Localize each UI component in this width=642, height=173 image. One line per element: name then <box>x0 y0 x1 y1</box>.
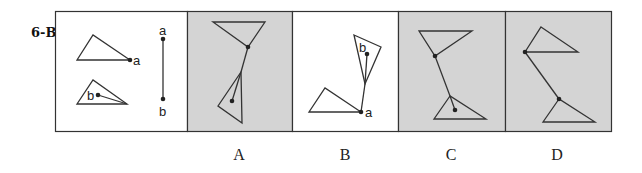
option-b-point-a <box>359 110 364 115</box>
puzzle-figure: a b a b b a <box>0 0 642 173</box>
option-c-point-1 <box>433 54 438 59</box>
option-d-point-1 <box>523 50 528 55</box>
reference-point-a <box>128 58 133 63</box>
option-label-a[interactable]: A <box>229 146 249 164</box>
option-b-label-a: a <box>365 105 373 120</box>
reference-point-b <box>96 93 101 98</box>
option-label-c[interactable]: C <box>441 146 461 164</box>
option-panel-b[interactable] <box>293 12 399 132</box>
reference-segment-point-b <box>161 97 166 102</box>
reference-label-b: b <box>87 88 94 103</box>
option-c-point-2 <box>453 108 458 113</box>
reference-segment-label-b: b <box>159 104 166 119</box>
option-panel-c[interactable] <box>399 12 506 132</box>
option-label-d[interactable]: D <box>547 146 567 164</box>
option-d-point-2 <box>557 97 562 102</box>
reference-segment-label-a: a <box>159 23 167 38</box>
option-a-point-1 <box>246 45 251 50</box>
option-panel-d[interactable] <box>506 12 612 132</box>
option-b-label-b: b <box>359 40 366 55</box>
option-label-b[interactable]: B <box>335 146 355 164</box>
reference-label-a: a <box>133 53 141 68</box>
reference-panel <box>56 12 188 132</box>
option-a-point-2 <box>230 99 235 104</box>
option-panel-a[interactable] <box>188 12 293 132</box>
